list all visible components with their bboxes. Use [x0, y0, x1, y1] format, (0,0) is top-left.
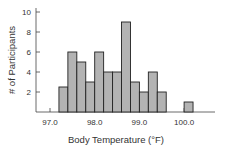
histogram-chart: 246810 97.098.099.0100.0 # of Participan…	[0, 0, 227, 150]
histogram-bar	[59, 87, 68, 112]
y-axis: 246810	[22, 8, 40, 112]
histogram-bar	[157, 92, 166, 112]
y-tick-label: 4	[27, 68, 32, 77]
x-tick-label: 99.0	[132, 118, 148, 127]
y-tick-label: 8	[27, 28, 32, 37]
y-tick-label: 6	[27, 48, 32, 57]
x-tick-label: 97.0	[42, 118, 58, 127]
histogram-bar	[95, 52, 104, 112]
histogram-bar	[130, 82, 139, 112]
histogram-bar	[184, 102, 193, 112]
histogram-bar	[113, 72, 122, 112]
histogram-bar	[148, 72, 157, 112]
histogram-bar	[139, 92, 148, 112]
y-axis-title: # of Participants	[6, 26, 17, 94]
x-tick-label: 98.0	[87, 118, 103, 127]
histogram-bar	[104, 72, 113, 112]
y-tick-label: 10	[22, 8, 31, 17]
y-tick-label: 2	[27, 88, 32, 97]
histogram-bar	[86, 82, 95, 112]
histogram-bar	[68, 52, 77, 112]
x-tick-label: 100.0	[174, 118, 195, 127]
histogram-bars	[59, 22, 193, 112]
histogram-bar	[122, 22, 131, 112]
x-axis-title: Body Temperature (°F)	[68, 134, 164, 145]
histogram-bar	[77, 62, 86, 112]
